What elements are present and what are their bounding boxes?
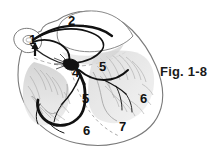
label-2: 2 bbox=[68, 14, 75, 27]
label-5-right: 5 bbox=[99, 60, 106, 73]
figure-container: 1 2 4 5 5 6 6 7 Fig. 1-8 bbox=[0, 0, 208, 150]
label-1: 1 bbox=[29, 33, 36, 46]
label-6-right: 6 bbox=[140, 92, 147, 105]
label-4: 4 bbox=[72, 66, 79, 79]
label-6-bottom: 6 bbox=[83, 124, 90, 137]
label-7: 7 bbox=[119, 120, 126, 133]
figure-caption: Fig. 1-8 bbox=[160, 64, 207, 79]
label-5-left: 5 bbox=[82, 92, 89, 105]
